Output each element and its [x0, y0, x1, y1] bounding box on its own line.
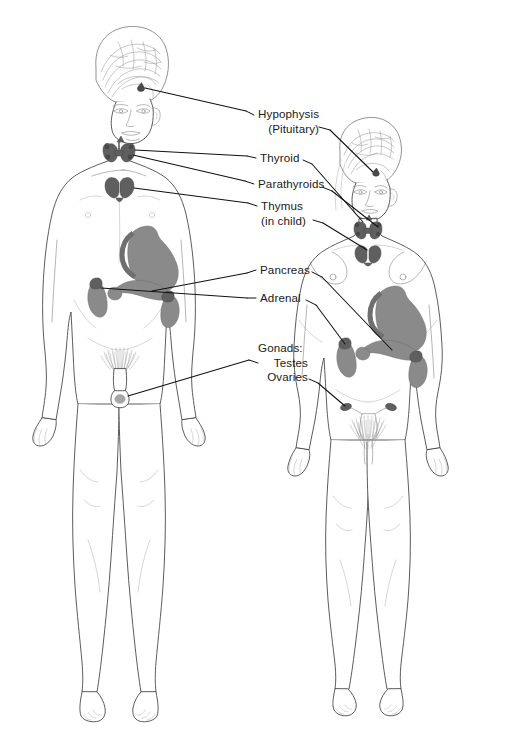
face-outline [111, 99, 153, 144]
label-gonads: Gonads: Testes Ovaries [236, 341, 308, 385]
label-thymus: Thymus (in child) [261, 199, 306, 228]
male-left-leg [73, 404, 119, 694]
male-ear-inner [154, 112, 157, 119]
label-parathyroids: Parathyroids [258, 177, 324, 192]
male-left-adrenal [90, 278, 102, 289]
label-thyroid: Thyroid [260, 151, 299, 166]
label-pancreas-line1: Pancreas [260, 263, 310, 278]
female-right-leg [367, 440, 410, 691]
female-left-leg [326, 440, 369, 691]
female-head [335, 117, 401, 220]
label-gonads-testes: Testes [236, 356, 308, 371]
leader-hypophysis-to-male [145, 88, 246, 111]
female-left-foot [333, 689, 356, 716]
leader-hypophysis-stub-left [246, 111, 254, 115]
right-hand [182, 418, 205, 446]
label-thymus-line1: Thymus [261, 199, 306, 214]
male-right-leg [119, 404, 165, 694]
leader-thyroid-stub-right [303, 160, 312, 164]
label-hypophysis: Hypophysis (Pituitary) [258, 107, 319, 136]
label-thymus-line2: (in child) [261, 214, 306, 229]
label-hypophysis-line2: (Pituitary) [258, 122, 319, 137]
male-head [96, 26, 169, 143]
leader-thymus-stub-left [248, 203, 257, 206]
female-right-hand [426, 448, 448, 476]
label-hypophysis-line1: Hypophysis [258, 107, 319, 122]
leader-parathyroids-stub-left [245, 181, 254, 184]
endocrine-system-diagram: Hypophysis (Pituitary) Thyroid Parathyro… [0, 0, 506, 745]
label-pancreas: Pancreas [260, 263, 310, 278]
leader-thymus-stub-right [313, 220, 323, 223]
female-hair-left [335, 160, 341, 210]
label-gonads-ovaries: Ovaries [236, 370, 308, 385]
leader-pancreas-stub-left [247, 270, 256, 273]
female-right-foot [380, 689, 403, 716]
label-adrenal-line1: Adrenal [260, 291, 301, 306]
label-adrenal: Adrenal [260, 291, 301, 306]
male-testis [115, 395, 125, 404]
female-legs [326, 440, 411, 716]
female-ear-inner [391, 193, 394, 200]
female-right-adrenal [410, 351, 422, 362]
female-figure [288, 117, 448, 715]
leader-hypophysis-stub-right [319, 127, 330, 130]
leader-thyroid-to-male [135, 150, 247, 156]
male-legs [73, 404, 166, 722]
label-parathyroids-line1: Parathyroids [258, 177, 324, 192]
female-left-hand [288, 448, 310, 476]
leader-thyroid-stub-left [247, 156, 256, 158]
left-hand [33, 418, 56, 446]
label-thyroid-line1: Thyroid [260, 151, 299, 166]
label-gonads-line1: Gonads: [236, 341, 308, 356]
male-figure [33, 26, 205, 721]
